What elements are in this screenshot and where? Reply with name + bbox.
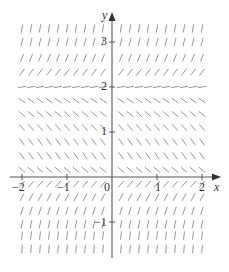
slope-segment	[90, 86, 98, 87]
slope-segment	[136, 167, 142, 172]
slope-segment	[148, 245, 149, 253]
slope-segment	[48, 220, 50, 228]
slope-segment	[38, 138, 43, 145]
slope-segment	[163, 98, 170, 103]
slope-segment	[137, 194, 141, 201]
y-axis-arrow-icon	[109, 12, 116, 21]
slope-segment	[56, 54, 59, 62]
slope-segment	[138, 207, 141, 215]
slope-segment	[181, 98, 188, 103]
slope-segment	[93, 38, 95, 46]
slope-segment	[28, 181, 34, 187]
slope-segment	[173, 194, 177, 201]
slope-segment	[200, 138, 205, 145]
slope-segment	[199, 69, 204, 76]
slope-segment	[81, 86, 89, 87]
slope-segment	[37, 98, 44, 103]
slope-segment	[193, 245, 194, 253]
slope-segment	[163, 69, 168, 76]
slope-segment	[45, 86, 53, 87]
slope-segment	[65, 54, 68, 62]
slope-segment	[48, 38, 50, 46]
slope-segment	[145, 69, 150, 76]
slope-segment	[127, 124, 133, 130]
slope-segment	[37, 111, 43, 116]
slope-segment	[82, 69, 87, 76]
slope-segment	[119, 54, 122, 62]
slope-segment	[173, 138, 178, 145]
slope-segment	[49, 245, 50, 253]
slope-segment	[147, 220, 149, 228]
slope-segment	[63, 86, 71, 87]
slope-segment	[66, 38, 68, 46]
slope-segment	[47, 138, 52, 145]
slope-segment	[147, 207, 150, 215]
slope-segment	[182, 138, 187, 145]
slope-segment	[138, 38, 140, 46]
slope-segment	[74, 152, 79, 159]
slope-segment	[156, 38, 158, 46]
slope-segment	[154, 167, 160, 172]
slope-segment	[192, 38, 194, 46]
slope-segment	[55, 98, 62, 103]
slope-segment	[66, 24, 67, 32]
slope-segment	[136, 69, 141, 76]
slope-segment	[38, 152, 43, 159]
slope-segment	[190, 98, 197, 103]
slope-segment	[100, 167, 106, 172]
slope-segment	[84, 220, 86, 228]
slope-segment	[182, 194, 186, 201]
slope-segment	[191, 138, 196, 145]
slope-segment	[39, 24, 40, 32]
slope-segment	[100, 98, 107, 103]
slope-segment	[29, 194, 33, 201]
slope-segment	[201, 38, 203, 46]
slope-segment	[56, 138, 61, 145]
slope-segment	[84, 231, 85, 239]
slope-segment	[73, 98, 80, 103]
slope-segment	[128, 194, 132, 201]
slope-segment	[82, 98, 89, 103]
slope-segment	[47, 194, 51, 201]
slope-segment	[56, 194, 60, 201]
slope-segment	[120, 220, 122, 228]
slope-segment	[199, 124, 205, 130]
slope-segment	[165, 207, 168, 215]
slope-segment	[128, 54, 131, 62]
slope-segment	[92, 54, 95, 62]
slope-segment	[120, 38, 122, 46]
slope-segment	[126, 86, 134, 87]
slope-segment	[129, 231, 130, 239]
slope-segment	[181, 69, 186, 76]
slope-segment	[118, 98, 125, 103]
slope-segment	[55, 69, 60, 76]
slope-segment	[84, 24, 85, 32]
slope-segment	[119, 138, 124, 145]
slope-segment	[91, 181, 97, 187]
slope-segment	[91, 69, 96, 76]
slope-segment	[82, 111, 88, 116]
slope-segment	[46, 69, 51, 76]
slope-segment	[64, 167, 70, 172]
slope-segment	[65, 194, 69, 201]
slope-segment	[183, 231, 184, 239]
slope-segment	[100, 69, 105, 76]
slope-segment	[155, 152, 160, 159]
slope-segment	[28, 111, 34, 116]
slope-segment	[28, 124, 34, 130]
slope-segment	[183, 38, 185, 46]
slope-segment	[20, 194, 24, 201]
slope-segment	[38, 54, 41, 62]
slope-segment	[183, 24, 184, 32]
slope-segment	[144, 86, 152, 87]
slope-segment	[138, 231, 139, 239]
slope-segment	[64, 98, 71, 103]
y-tick-label-2: 2	[101, 80, 107, 92]
slope-segment	[92, 194, 96, 201]
slope-segment	[183, 207, 186, 215]
slope-segment	[37, 124, 43, 130]
slope-segment	[155, 194, 159, 201]
slope-segment	[75, 207, 78, 215]
slope-segment	[37, 69, 42, 76]
slope-segment	[55, 111, 61, 116]
